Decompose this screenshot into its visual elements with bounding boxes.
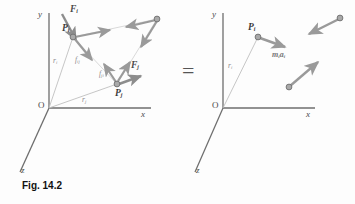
right-z-axis xyxy=(195,108,223,172)
left-external-force-i-label: Fi xyxy=(70,5,78,15)
left-y-axis-label: y xyxy=(38,10,42,19)
right-origin-label: O xyxy=(212,101,219,110)
figure-14-2-canvas xyxy=(0,0,355,204)
left-external-force-j-arrow xyxy=(119,76,141,84)
left-particle-j xyxy=(114,81,120,87)
left-internal-force-ji-label: fji xyxy=(99,70,104,79)
left-diagram-group xyxy=(20,13,160,172)
right-point-i-label: Pi xyxy=(248,23,255,33)
equals-sign: = xyxy=(182,58,194,84)
right-particle-j xyxy=(286,84,292,90)
left-particle-k xyxy=(154,16,160,22)
left-origin-label: O xyxy=(38,101,45,110)
left-internal-force-jk-arrow xyxy=(118,62,130,81)
left-internal-force-kj-arrow xyxy=(141,21,157,47)
left-z-axis-label: z xyxy=(21,166,25,175)
right-y-axis-label: y xyxy=(212,10,216,19)
right-effective-force-i-label: miai xyxy=(272,51,285,60)
right-effective-force-k-arrow xyxy=(309,19,339,34)
left-point-i-label: Pi xyxy=(62,24,69,34)
left-z-axis xyxy=(20,108,49,172)
left-internal-force-ij-label: fij xyxy=(75,56,80,65)
right-effective-force-i-arrow xyxy=(260,38,285,47)
left-position-vector-i-label: ri xyxy=(53,57,57,66)
left-point-j-label: Pj xyxy=(115,89,122,99)
right-particle-i xyxy=(255,34,261,40)
right-diagram-group xyxy=(195,13,343,172)
left-position-vector-i xyxy=(49,37,73,108)
right-position-vector-i-label: ri xyxy=(228,62,232,71)
right-x-axis-label: x xyxy=(306,110,310,119)
right-z-axis-label: z xyxy=(196,166,200,175)
right-effective-force-j-arrow xyxy=(290,62,318,86)
left-internal-force-ji-arrow xyxy=(104,64,116,82)
left-particle-i xyxy=(70,34,76,40)
left-x-axis-label: x xyxy=(141,110,145,119)
right-particle-k xyxy=(337,15,343,21)
left-internal-force-ik-arrow xyxy=(75,30,110,37)
right-position-vector-i xyxy=(223,37,258,108)
left-external-force-j-label: Fj xyxy=(131,61,139,71)
left-position-vector-j-label: rj xyxy=(82,96,86,105)
figure-caption: Fig. 14.2 xyxy=(22,180,62,191)
left-internal-force-ki-arrow xyxy=(126,20,156,27)
